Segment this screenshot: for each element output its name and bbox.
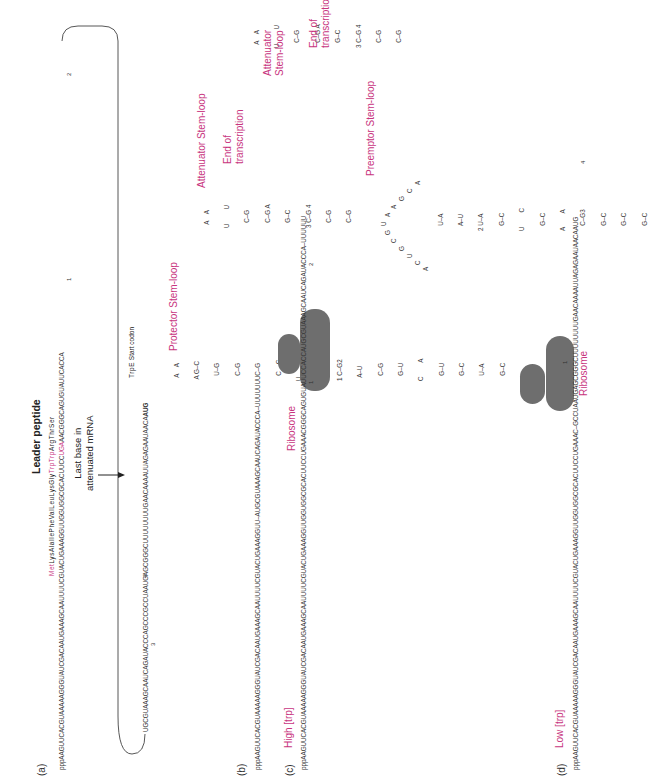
stem-row: A–U [458, 208, 465, 231]
stem-row: U–A [479, 359, 486, 381]
high-trp-label: High [trp] [283, 707, 295, 748]
loop-letter: U [407, 253, 414, 258]
attenuator-stem-loop-b: A A U U C–G C–G A G–C 3 C–G 4 C–G C–G [190, 204, 367, 228]
loop-letter: C [407, 188, 414, 193]
stem-row: C–G [294, 24, 301, 48]
stem-row: A G–C [194, 359, 201, 381]
start-codon-aug: AUG [142, 403, 149, 417]
end-label-line2: transcription [320, 0, 332, 48]
protector-label: Protector Stem-loop [168, 262, 180, 351]
loop-letter: A [385, 213, 392, 217]
stem-row: 3 C–G 4 [356, 24, 363, 48]
seq-b-tail: UUUUUUU [254, 376, 261, 407]
stem-row: G–C [499, 208, 506, 231]
panel-d-label: (d) [556, 764, 567, 776]
stem-row: C–G [244, 204, 251, 228]
loop-letter: A [415, 181, 422, 185]
preemptor-label: Preemptor Stem-loop [365, 81, 377, 176]
stem-row: U U [224, 204, 231, 228]
loop-letter: G [385, 230, 392, 235]
region-1-number-d: 1 [562, 361, 568, 364]
panel-c-label: (c) [284, 764, 295, 776]
start-codon-label: Start codon [128, 327, 135, 360]
stem-row: A–U [357, 359, 364, 381]
last-base-note-line1: Last base in [72, 415, 84, 491]
loop-letter: U [381, 221, 388, 226]
stem-row: A A [254, 24, 261, 48]
attenuator-label-b: Attenuator Stem-loop [196, 94, 208, 189]
stem-row: G–C [459, 359, 466, 381]
leader-sequence-bottom: UGCGUAAAGCAAUCAGAUACCCAGCCCGCCUAAUGAGCGG… [142, 403, 149, 732]
ribosome-label-d: Ribosome [578, 351, 590, 396]
stem-row: G–C [540, 208, 547, 231]
ribosome-small-subunit-d [520, 364, 545, 404]
stem-row: G–C [285, 204, 292, 228]
stem-row: 1 C–G2 [337, 359, 344, 381]
down-arrow-icon [98, 470, 128, 480]
protector-stem-loop: A A A G–C U–G C–G C–G C C U U–A 1 C–G2 A… [160, 359, 520, 381]
last-base-note: Last base in attenuated mRNA [72, 415, 96, 491]
seq-c-main: pppAAGUUCACGUAAAAAGGGUAUCGACAAUGAAAGCAAU… [300, 246, 307, 770]
trpe-label: TrpE [128, 362, 135, 378]
loop-letter: A [423, 267, 430, 271]
stem-row: C–G [376, 24, 383, 48]
region-3-number: 3 [150, 643, 156, 646]
region-4-number: 4 [142, 575, 148, 578]
seq-b-part2: AUGCGUAAAGCAAUCAGAUACCCA [254, 411, 261, 517]
end-transcription-label-b: End of transcription [222, 110, 246, 164]
stem-row: A A [204, 204, 211, 228]
stem-row: G–U [439, 359, 446, 381]
stem-row: G–C [621, 208, 628, 231]
loop-letter: C [415, 260, 422, 265]
loop-letter: A [391, 205, 398, 209]
end-label-line2: transcription [234, 110, 246, 164]
stem-row: G–U [398, 359, 405, 381]
region-4-number-d: 4 [580, 161, 586, 164]
ribosome-large-subunit-d [546, 336, 574, 411]
preemptor-stem: U–A A–U 2 U–A G–C U C G–C A A C–G3 G–C G… [424, 208, 652, 231]
stem-row: C–G [346, 204, 353, 228]
stem-row: 2 U–A [478, 208, 485, 231]
last-base-note-line2: attenuated mRNA [84, 415, 96, 491]
stem-row: U–G [214, 359, 221, 381]
attenuator-line2: Stem-loop [274, 30, 286, 76]
stem-row: C–G3 [580, 208, 587, 231]
trpe-start-codon: TrpE Start codon [128, 327, 135, 378]
region-2-number-c: 2 [308, 263, 314, 266]
stem-row: G–C [500, 359, 507, 381]
panel-d-sequence: pppAAGUUCACGUAAAAAGGGUAUCGACAAUGAAAGCAAU… [572, 217, 579, 770]
loop-letter: G [399, 196, 406, 201]
stem-row: U–A [438, 208, 445, 231]
region-1-number-c: 1 [308, 381, 314, 384]
low-trp-label: Low [trp] [554, 710, 566, 748]
stem-row: C–G [326, 204, 333, 228]
panel-b-sequence: pppAAGUUCACGUAAAAAGGGUAUCGACAAUGAAAGCAAU… [254, 376, 261, 770]
end-transcription-label-c: End of transcription [308, 0, 332, 48]
end-label-line1: End of [308, 0, 320, 48]
ribosome-small-subunit-c [278, 334, 300, 374]
stem-row: A A [174, 359, 181, 381]
panel-b-label: (b) [236, 764, 247, 776]
attenuator-label-c: Attenuator Stem-loop [262, 30, 286, 76]
stem-row: G–C [335, 24, 342, 48]
loop-letter: G [399, 246, 406, 251]
stem-row: A A [560, 208, 567, 231]
stem-row: G–C [642, 208, 649, 231]
end-label-line1: End of [222, 110, 234, 164]
stem-row: G–C [601, 208, 608, 231]
seq-b-part1: pppAAGUUCACGUAAAAAGGGUAUCGACAAUGAAAGCAAU… [254, 520, 261, 770]
stem-row: C–G [235, 359, 242, 381]
seq-c-tail: UUUUUU [300, 216, 307, 243]
mrna-loop-connector [40, 0, 150, 776]
stem-row: C–G [378, 359, 385, 381]
stem-row: C–G [396, 24, 403, 48]
seq-d-part1: pppAAGUUCACGUAAAAAGGGUAUCGACAAUGAAAGCAAU… [572, 429, 579, 770]
stem-row: C A [418, 359, 425, 381]
stem-row: U C [519, 208, 526, 231]
seq-d-part2: GCCUAAUGAGCGGGCUUUUUUUUGAACAAAAUUAGAGAAU… [572, 217, 579, 426]
ribosome-label-c: Ribosome [286, 406, 298, 451]
panel-c-sequence: pppAAGUUCACGUAAAAAGGGUAUCGACAAUGAAAGCAAU… [300, 216, 307, 770]
loop-letter: C [391, 238, 398, 243]
stem-row: C–G A [265, 204, 272, 228]
